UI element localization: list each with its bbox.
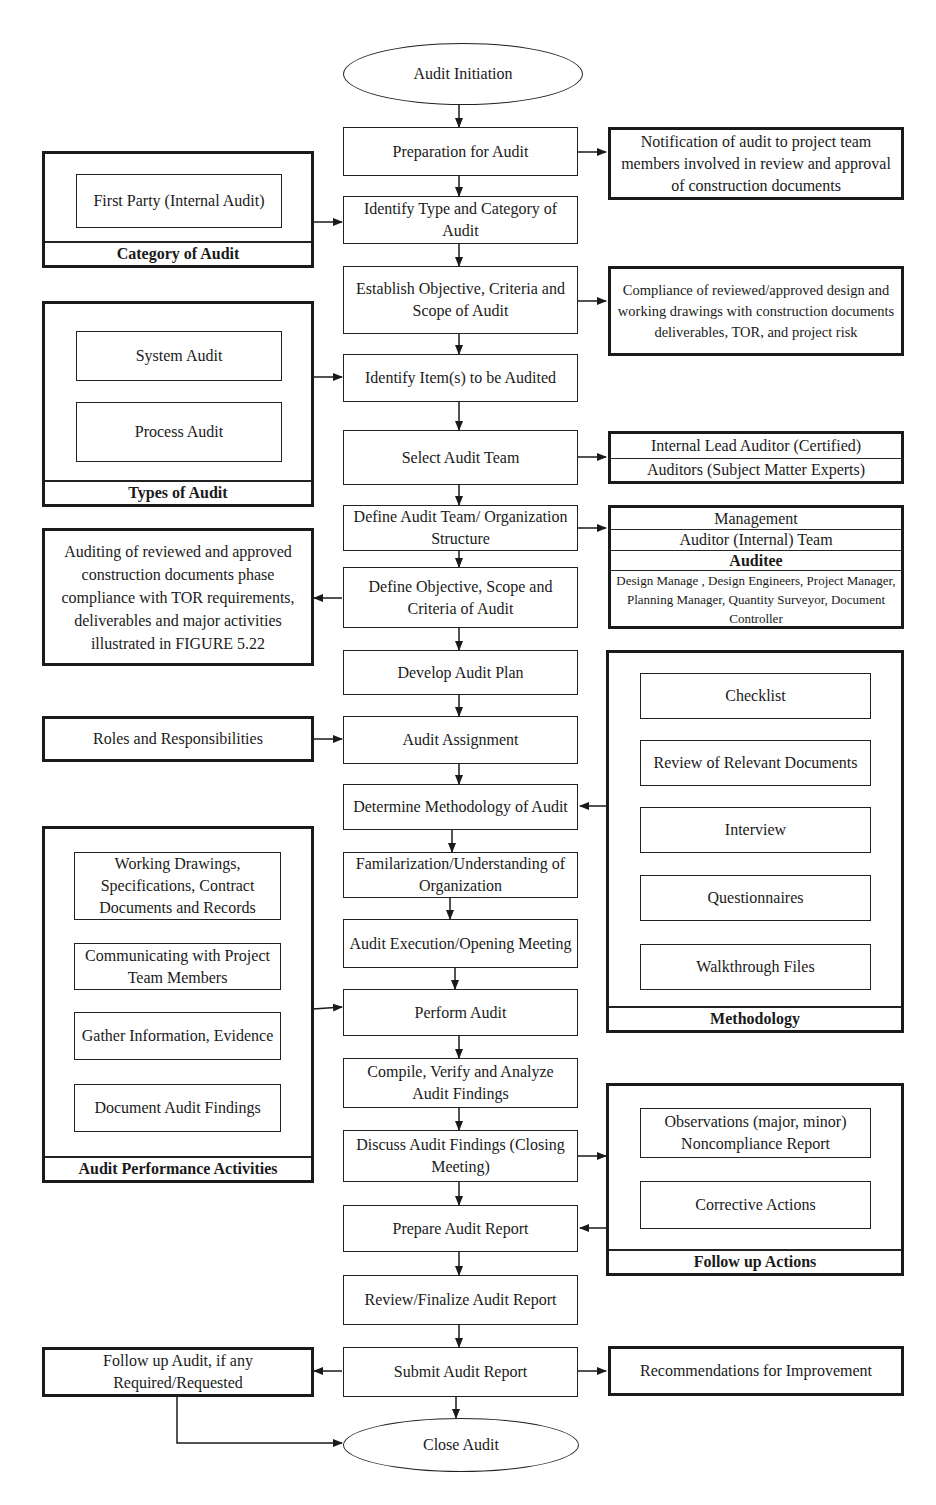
method-questionnaires: Questionnaires bbox=[640, 875, 871, 921]
org-auditee-title: Auditee bbox=[611, 551, 901, 571]
note-follow-up-audit: Follow up Audit, if any Required/Request… bbox=[42, 1347, 314, 1397]
step-familiarization: Familarization/Understanding of Organiza… bbox=[343, 852, 578, 898]
step-discuss: Discuss Audit Findings (Closing Meeting) bbox=[343, 1130, 578, 1182]
auditors-sme: Auditors (Subject Matter Experts) bbox=[611, 459, 901, 481]
step-submit-report: Submit Audit Report bbox=[343, 1347, 578, 1397]
step-preparation: Preparation for Audit bbox=[343, 127, 578, 176]
group-follow-up-title: Follow up Actions bbox=[609, 1249, 901, 1273]
group-methodology-title: Methodology bbox=[609, 1006, 901, 1030]
step-methodology: Determine Methodology of Audit bbox=[343, 784, 578, 830]
organization-box: Management Auditor (Internal) Team Audit… bbox=[608, 505, 904, 629]
lead-auditor: Internal Lead Auditor (Certified) bbox=[611, 434, 901, 459]
step-assignment: Audit Assignment bbox=[343, 716, 578, 764]
method-checklist: Checklist bbox=[640, 673, 871, 719]
note-compliance: Compliance of reviewed/approved design a… bbox=[608, 266, 904, 356]
org-auditee-members: Design Manage , Design Engineers, Projec… bbox=[611, 571, 901, 628]
group-types-title: Types of Audit bbox=[45, 480, 311, 504]
step-perform: Perform Audit bbox=[343, 989, 578, 1036]
group-performance-title: Audit Performance Activities bbox=[45, 1156, 311, 1180]
note-roles: Roles and Responsibilities bbox=[42, 716, 314, 762]
group-follow-up: Observations (major, minor) Noncomplianc… bbox=[606, 1083, 904, 1276]
start-terminal: Audit Initiation bbox=[343, 43, 583, 105]
step-define-objective: Define Objective, Scope and Criteria of … bbox=[343, 567, 578, 628]
note-recommendations: Recommendations for Improvement bbox=[608, 1346, 904, 1396]
type-process-audit: Process Audit bbox=[76, 402, 282, 462]
activity-document-findings: Document Audit Findings bbox=[74, 1084, 281, 1132]
group-category: First Party (Internal Audit) Category of… bbox=[42, 151, 314, 268]
note-auditing-scope: Auditing of reviewed and approved constr… bbox=[42, 528, 314, 666]
followup-observations: Observations (major, minor) Noncomplianc… bbox=[640, 1108, 871, 1158]
followup-corrective-actions: Corrective Actions bbox=[640, 1181, 871, 1229]
method-interview: Interview bbox=[640, 807, 871, 853]
activity-communicating: Communicating with Project Team Members bbox=[74, 943, 281, 990]
category-first-party: First Party (Internal Audit) bbox=[76, 174, 282, 228]
method-review-documents: Review of Relevant Documents bbox=[640, 740, 871, 786]
org-management: Management bbox=[611, 508, 901, 530]
step-review-report: Review/Finalize Audit Report bbox=[343, 1275, 578, 1325]
start-label: Audit Initiation bbox=[413, 65, 512, 83]
type-system-audit: System Audit bbox=[76, 331, 282, 381]
step-execution: Audit Execution/Opening Meeting bbox=[343, 919, 578, 968]
audit-team-box: Internal Lead Auditor (Certified) Audito… bbox=[608, 431, 904, 484]
group-performance: Working Drawings, Specifications, Contra… bbox=[42, 826, 314, 1183]
group-category-title: Category of Audit bbox=[45, 241, 311, 265]
step-prepare-report: Prepare Audit Report bbox=[343, 1205, 578, 1252]
step-identify-items: Identify Item(s) to be Audited bbox=[343, 354, 578, 402]
step-establish-objective: Establish Objective, Criteria and Scope … bbox=[343, 266, 578, 334]
group-types: System Audit Process Audit Types of Audi… bbox=[42, 301, 314, 507]
end-terminal: Close Audit bbox=[343, 1418, 579, 1472]
end-label: Close Audit bbox=[423, 1436, 499, 1454]
step-define-team: Define Audit Team/ Organization Structur… bbox=[343, 505, 578, 551]
step-compile: Compile, Verify and Analyze Audit Findin… bbox=[343, 1058, 578, 1108]
group-methodology: Checklist Review of Relevant Documents I… bbox=[606, 650, 904, 1033]
activity-gather-info: Gather Information, Evidence bbox=[74, 1012, 281, 1060]
method-walkthrough: Walkthrough Files bbox=[640, 944, 871, 990]
step-identify-type: Identify Type and Category of Audit bbox=[343, 196, 578, 244]
activity-working-drawings: Working Drawings, Specifications, Contra… bbox=[74, 852, 281, 920]
note-notification: Notification of audit to project team me… bbox=[608, 127, 904, 200]
step-select-team: Select Audit Team bbox=[343, 430, 578, 485]
step-develop-plan: Develop Audit Plan bbox=[343, 650, 578, 695]
org-auditor-team: Auditor (Internal) Team bbox=[611, 530, 901, 551]
